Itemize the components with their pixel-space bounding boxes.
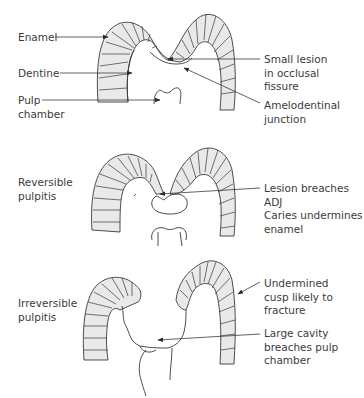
tooth-normal <box>42 14 260 110</box>
tooth-irreversible <box>83 261 260 396</box>
tooth-reversible <box>92 148 260 246</box>
tooth-diagram <box>0 0 364 398</box>
